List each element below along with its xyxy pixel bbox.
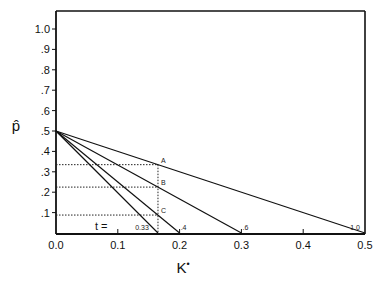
y-tick-label: .1	[41, 207, 50, 219]
x-tick-label: 0.0	[48, 239, 63, 251]
y-tick-label: .8	[41, 64, 50, 76]
y-axis-ticks: .1.2.3.4.5.6.7.8.91.0	[35, 23, 56, 219]
y-tick-label: 1.0	[35, 23, 50, 35]
plot-frame	[56, 11, 365, 234]
t-value-label: 1.0	[350, 224, 360, 231]
y-tick-label: .7	[41, 84, 50, 96]
x-tick-label: 0.5	[357, 239, 372, 251]
series-lines	[56, 131, 365, 233]
t-value-label: 0.33	[135, 224, 149, 231]
t-value-label: .4	[181, 224, 187, 231]
t-value-label: .6	[242, 224, 248, 231]
series-line	[56, 131, 365, 233]
point-label: B	[161, 179, 166, 186]
x-axis-title: K•	[176, 259, 189, 276]
x-tick-label: 0.3	[234, 239, 249, 251]
x-tick-label: 0.4	[296, 239, 311, 251]
y-tick-label: .3	[41, 166, 50, 178]
point-label: C	[161, 207, 166, 214]
y-axis-title: p̂	[12, 117, 20, 134]
y-tick-label: .9	[41, 43, 50, 55]
point-annotations: ABC	[161, 157, 166, 214]
x-tick-label: 0.1	[110, 239, 125, 251]
y-tick-label: .5	[41, 125, 50, 137]
series-line	[56, 131, 241, 233]
chart: .1.2.3.4.5.6.7.8.91.0 0.00.10.20.30.40.5…	[0, 0, 381, 285]
t-prefix-label: t =	[95, 220, 108, 232]
series-line	[56, 131, 158, 233]
y-tick-label: .2	[41, 186, 50, 198]
point-label: A	[161, 157, 166, 164]
x-tick-label: 0.2	[172, 239, 187, 251]
y-tick-label: .6	[41, 105, 50, 117]
x-axis-ticks: 0.00.10.20.30.40.5	[48, 229, 372, 251]
y-tick-label: .4	[41, 145, 50, 157]
